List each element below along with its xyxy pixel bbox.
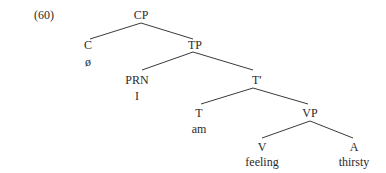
- edge-tp-tbar: [193, 52, 253, 70]
- edge-tbar-t: [201, 88, 253, 104]
- node-a: A: [350, 140, 359, 154]
- edge-tp-prn: [142, 52, 193, 70]
- word-c-null: ø: [85, 55, 91, 69]
- edge-vp-v: [262, 121, 310, 138]
- syntax-tree-diagram: (60) CP C ø TP PRN I T′ T am VP V feelin…: [0, 0, 386, 173]
- edge-tbar-vp: [253, 88, 308, 104]
- node-tp: TP: [188, 38, 202, 52]
- word-a-thirsty: thirsty: [339, 155, 370, 169]
- word-prn-i: I: [135, 89, 139, 103]
- example-number: (60): [34, 8, 54, 22]
- edge-cp-c: [90, 23, 141, 39]
- word-t-am: am: [192, 122, 207, 136]
- edge-cp-tp: [141, 23, 193, 39]
- edge-vp-a: [310, 121, 353, 138]
- node-cp: CP: [134, 8, 149, 22]
- node-prn: PRN: [125, 73, 148, 87]
- node-t: T: [195, 106, 202, 120]
- node-tbar: T′: [252, 73, 262, 87]
- node-c: C: [84, 38, 92, 52]
- word-v-feeling: feeling: [245, 155, 278, 169]
- tree-edges: [0, 0, 386, 173]
- node-vp: VP: [302, 106, 317, 120]
- node-v: V: [258, 140, 267, 154]
